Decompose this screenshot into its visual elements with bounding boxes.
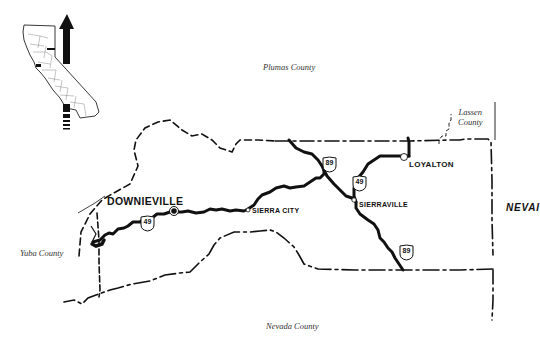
lassen-line2: County xyxy=(458,117,483,127)
sierraville-marker xyxy=(352,198,356,202)
highway-89-shield: 89 xyxy=(321,156,338,173)
sierra-city-label: SIERRA CITY xyxy=(252,207,299,214)
lassen-line1: Lassen xyxy=(458,107,483,117)
yuba-county-label: Yuba County xyxy=(20,248,63,258)
nevada-county-label: Nevada County xyxy=(266,321,319,331)
california-locator-inset xyxy=(23,25,99,118)
downieville-marker xyxy=(170,207,179,216)
sierraville-label: SIERRAVILLE xyxy=(359,201,408,208)
lassen-county-label: Lassen County xyxy=(458,107,483,127)
loyalton-marker xyxy=(401,154,408,161)
loyalton-label: LOYALTON xyxy=(409,160,454,169)
highway-49-shield: 49 xyxy=(351,175,368,192)
highway-49-shield: 49 xyxy=(139,215,156,232)
plumas-county-label: Plumas County xyxy=(263,62,315,72)
river-west-tail xyxy=(91,226,96,242)
downieville-label: DOWNIEVILLE xyxy=(107,195,183,207)
highway-89-shield: 89 xyxy=(398,244,415,261)
nevada-state-label: NEVAI xyxy=(506,202,540,213)
county-boundary xyxy=(64,120,493,320)
yuba-county-line xyxy=(78,196,105,213)
sierra-city-marker xyxy=(246,208,250,212)
